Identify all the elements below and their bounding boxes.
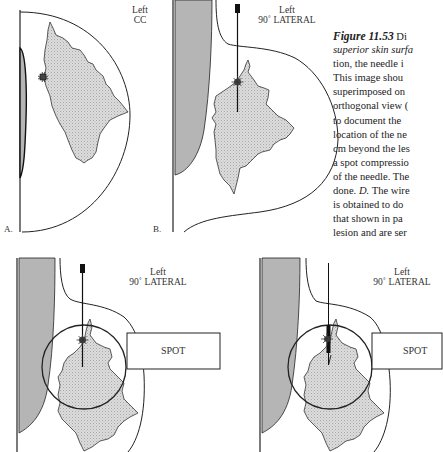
spot-label: SPOT <box>161 345 185 356</box>
caption-text: Di <box>394 31 407 42</box>
panel-c-view-label: Left 90˚ LATERAL <box>128 267 188 287</box>
panel-d-view-label: Left 90˚ LATERAL <box>372 267 432 287</box>
caption-line-1: Figure 11.53 Di <box>333 29 443 43</box>
view-label-projection: 90˚ LATERAL <box>372 277 432 287</box>
needle-hub <box>80 264 85 273</box>
panel-b-lateral-view: Left 90˚ LATERAL B. <box>140 0 330 235</box>
caption-line-8: location of the ne <box>333 128 443 142</box>
spot-view-illustration <box>0 255 230 452</box>
view-label-side: Left <box>372 267 432 277</box>
caption-line-5: superimposed on <box>333 85 443 99</box>
caption-line-11: of the needle. The <box>333 170 443 184</box>
caption-line-7: to document the <box>333 114 443 128</box>
needle-hub <box>235 4 240 13</box>
panel-letter-b: B. <box>153 224 161 234</box>
lateral-view-illustration <box>140 0 330 235</box>
panel-a-cc-view: Left CC A. <box>0 0 145 235</box>
panel-d-wire-view: Left 90˚ LATERAL SPOT <box>230 255 430 452</box>
caption-line-3: tion, the needle i <box>333 57 443 71</box>
caption-line-10: a spot compressio <box>333 156 443 170</box>
caption-line-6: orthogonal view ( <box>333 99 443 113</box>
view-label-side: Left <box>257 5 317 15</box>
caption-line-4: This image shou <box>333 71 443 85</box>
caption-line-2: superior skin surfa <box>333 43 443 57</box>
caption-text: D. <box>359 185 369 196</box>
caption-line-12: done. D. The wire <box>333 184 443 198</box>
view-label-projection: 90˚ LATERAL <box>128 277 188 287</box>
figure-number: Figure 11.53 <box>333 30 394 42</box>
caption-text: done. <box>333 185 359 196</box>
cc-view-illustration <box>0 0 145 235</box>
view-label-side: Left <box>128 267 188 277</box>
spot-label: SPOT <box>403 345 427 356</box>
caption-line-13: is obtained to do <box>333 198 443 212</box>
panel-c-spot-compression-view: Left 90˚ LATERAL SPOT <box>0 255 230 452</box>
caption-line-9: cm beyond the les <box>333 142 443 156</box>
caption-line-15: lesion and are ser <box>333 226 443 240</box>
caption-text: The wire <box>369 185 409 196</box>
view-label-projection: 90˚ LATERAL <box>257 15 317 25</box>
panel-letter-a: A. <box>4 224 13 234</box>
figure-caption: Figure 11.53 Di superior skin surfa tion… <box>333 29 443 240</box>
panel-b-view-label: Left 90˚ LATERAL <box>257 5 317 25</box>
caption-text: superior skin surfa <box>333 44 413 55</box>
caption-line-14: that shown in pa <box>333 212 443 226</box>
